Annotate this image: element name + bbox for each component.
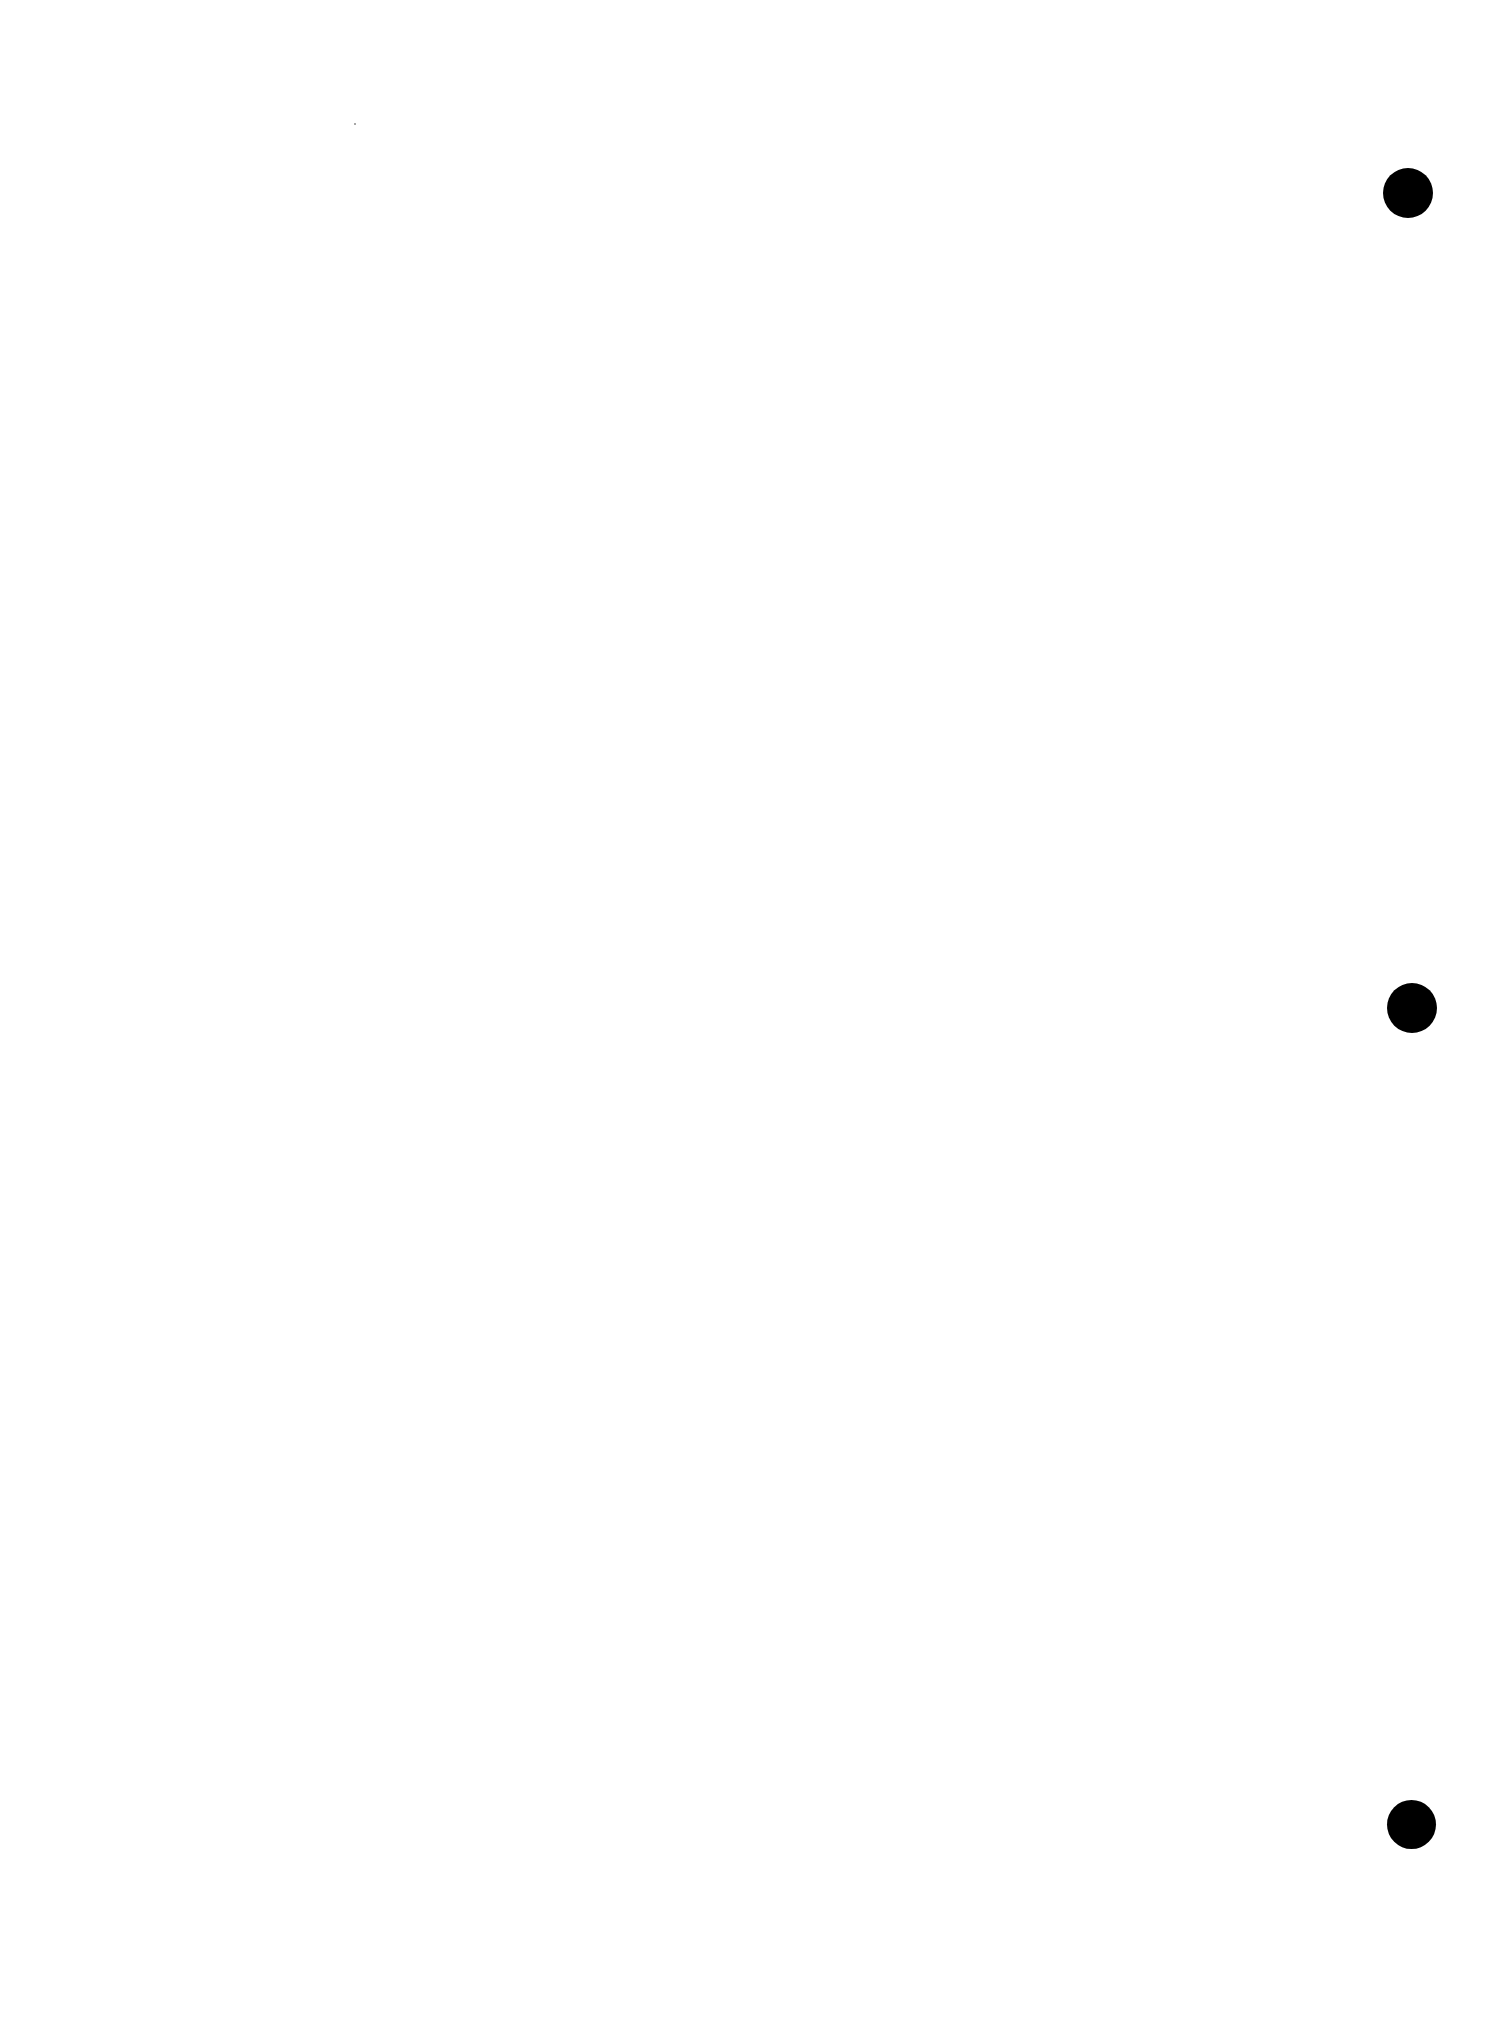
punch-hole-top: [1383, 168, 1433, 218]
blank-scanned-page: [0, 0, 1497, 2034]
punch-hole-bottom: [1387, 1800, 1436, 1849]
punch-hole-middle: [1387, 983, 1437, 1033]
scan-speck: [354, 123, 356, 125]
